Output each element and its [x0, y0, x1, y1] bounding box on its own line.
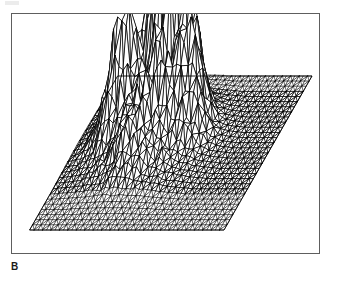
- plot-frame: [11, 13, 320, 254]
- panel-label-b: B: [11, 261, 18, 273]
- scan-artifact: [5, 1, 19, 5]
- figure-panel-b: B: [0, 0, 337, 282]
- surface-plot-canvas: [12, 14, 319, 253]
